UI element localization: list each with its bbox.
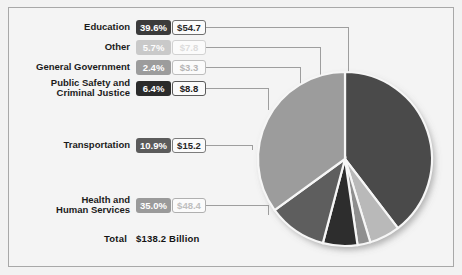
percent-badge-education: 39.6% <box>136 20 171 35</box>
callout-row-other: Other 5.7% $7.8 <box>18 39 206 55</box>
callout-badges-general-government: 2.4% $3.3 <box>136 60 206 75</box>
pie-chart-figure: Education 39.6% $54.7 Other 5.7% $7.8 Ge… <box>0 0 462 275</box>
callout-label-other: Other <box>105 42 136 53</box>
callout-row-health-and-human-services: Health and Human Services 35.0% $48.4 <box>18 191 206 219</box>
callout-badges-education: 39.6% $54.7 <box>136 20 206 35</box>
total-label: Total <box>104 233 127 244</box>
callout-label-education: Education <box>84 22 136 33</box>
amount-badge-health: $48.4 <box>172 198 206 213</box>
percent-badge-transportation: 10.9% <box>136 138 171 153</box>
callout-label-general-government: General Government <box>36 62 136 73</box>
callout-label-health-and-human-services: Health and Human Services <box>56 195 136 216</box>
callout-row-general-government: General Government 2.4% $3.3 <box>8 59 206 75</box>
amount-badge-public-safety: $8.8 <box>172 81 206 96</box>
total-value: $138.2 Billion <box>136 233 200 244</box>
callout-row-transportation: Transportation 10.9% $15.2 <box>18 137 206 153</box>
percent-badge-public-safety: 6.4% <box>136 81 171 96</box>
callout-badges-public-safety: 6.4% $8.8 <box>136 81 206 96</box>
callout-label-transportation: Transportation <box>63 140 136 151</box>
percent-badge-other: 5.7% <box>136 40 171 55</box>
pie-svg <box>244 58 446 260</box>
amount-badge-general-government: $3.3 <box>172 60 206 75</box>
callout-row-public-safety-and-criminal-justice: Public Safety and Criminal Justice 6.4% … <box>18 74 206 102</box>
percent-badge-general-government: 2.4% <box>136 60 171 75</box>
callout-badges-other: 5.7% $7.8 <box>136 40 206 55</box>
percent-badge-health: 35.0% <box>136 198 171 213</box>
callout-label-public-safety-and-criminal-justice: Public Safety and Criminal Justice <box>51 78 136 99</box>
callout-row-education: Education 39.6% $54.7 <box>18 19 206 35</box>
amount-badge-other: $7.8 <box>172 40 206 55</box>
callout-badges-transportation: 10.9% $15.2 <box>136 138 206 153</box>
amount-badge-transportation: $15.2 <box>172 138 206 153</box>
total-row: Total$138.2 Billion <box>104 233 200 244</box>
callout-badges-health: 35.0% $48.4 <box>136 198 206 213</box>
pie-slices <box>258 72 432 246</box>
amount-badge-education: $54.7 <box>172 20 206 35</box>
pie-graphic <box>244 58 446 260</box>
